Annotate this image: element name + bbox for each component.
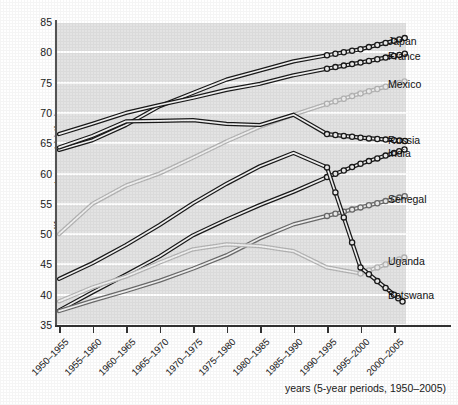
projection-marker — [350, 48, 355, 53]
projection-marker — [375, 265, 380, 270]
series-india — [59, 147, 407, 311]
projection-marker — [341, 133, 346, 138]
projection-marker — [324, 66, 329, 71]
projection-marker — [375, 86, 380, 91]
projection-marker — [341, 50, 346, 55]
projection-marker — [324, 53, 329, 58]
x-tick-mark — [361, 325, 363, 333]
projection-marker — [375, 156, 380, 161]
projection-marker — [324, 101, 329, 106]
projection-marker — [341, 168, 346, 173]
projection-marker — [324, 213, 329, 218]
chart-canvas: life expectancy at birth, in years 85807… — [0, 0, 458, 405]
projection-marker — [375, 279, 380, 284]
projection-marker — [341, 96, 346, 101]
x-tick-mark — [227, 325, 229, 333]
series-france — [59, 51, 407, 134]
projection-marker — [358, 60, 363, 65]
projection-marker — [358, 47, 363, 52]
projection-marker — [350, 165, 355, 170]
x-tick-mark — [160, 325, 162, 333]
projection-marker — [366, 272, 371, 277]
projection-marker — [366, 45, 371, 50]
x-tick-mark — [193, 325, 195, 333]
projection-marker — [333, 211, 338, 216]
projection-marker — [366, 159, 371, 164]
projection-marker — [366, 203, 371, 208]
projection-marker — [333, 190, 338, 195]
projection-marker — [341, 215, 346, 220]
x-tick-mark — [59, 325, 61, 333]
x-tick-mark — [394, 325, 396, 333]
projection-marker — [375, 42, 380, 47]
x-tick-mark — [260, 325, 262, 333]
projection-marker — [358, 271, 363, 276]
projection-marker — [324, 132, 329, 137]
series-label-mexico: Mexico — [388, 78, 421, 90]
projection-marker — [350, 94, 355, 99]
projection-marker — [375, 57, 380, 62]
projection-marker — [324, 165, 329, 170]
projection-marker — [350, 134, 355, 139]
series-label-russia: Russia — [388, 134, 420, 146]
projection-marker — [333, 65, 338, 70]
projection-marker — [358, 265, 363, 270]
series-label-uganda: Uganda — [388, 255, 425, 267]
series-japan — [59, 36, 407, 150]
x-axis-caption: years (5-year periods, 1950–2005) — [0, 382, 446, 394]
projection-marker — [358, 135, 363, 140]
projection-marker — [350, 62, 355, 67]
x-tick-mark — [93, 325, 95, 333]
projection-marker — [375, 136, 380, 141]
x-tick-mark — [327, 325, 329, 333]
projection-marker — [358, 161, 363, 166]
projection-marker — [333, 99, 338, 104]
x-tick-mark — [126, 325, 128, 333]
series-label-japan: Japan — [388, 35, 417, 47]
projection-marker — [333, 132, 338, 137]
series-label-india: India — [388, 147, 411, 159]
projection-marker — [341, 63, 346, 68]
series-label-senegal: Senegal — [388, 193, 427, 205]
projection-marker — [366, 58, 371, 63]
x-tick-mark — [294, 325, 296, 333]
series-label-france: France — [388, 50, 421, 62]
projection-marker — [375, 201, 380, 206]
projection-marker — [366, 136, 371, 141]
projection-marker — [358, 205, 363, 210]
projection-marker — [333, 51, 338, 56]
projection-marker — [350, 240, 355, 245]
projection-marker — [366, 89, 371, 94]
series-label-botswana: Botswana — [388, 289, 434, 301]
projection-marker — [358, 91, 363, 96]
projection-marker — [333, 171, 338, 176]
projection-marker — [350, 207, 355, 212]
